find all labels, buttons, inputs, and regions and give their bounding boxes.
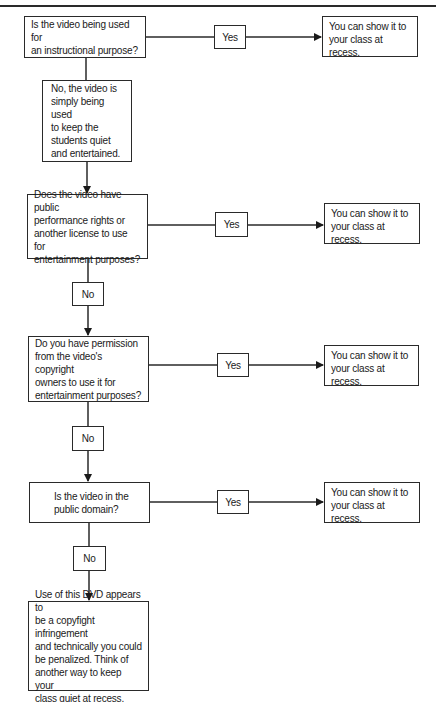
outcome-show-at-recess-2: You can show it to your class at recess. [324,203,420,244]
yes-label-3: Yes [217,353,249,377]
yes-label-2: Yes [215,212,248,237]
conclusion-copyright-infringement: Use of this DVD appears to be a copyfigh… [28,601,149,691]
outcome-show-at-recess-3: You can show it to your class at recess. [324,345,419,386]
decision-public-performance-rights: Does the video have public performance r… [27,194,148,259]
decision-copyright-permission: Do you have permission from the video's … [28,336,149,402]
yes-label-1: Yes [214,25,246,49]
no-label-3: No [73,546,106,571]
outcome-show-at-recess-1: You can show it to your class at recess. [322,16,418,57]
outcome-show-at-recess-4: You can show it to your class at recess. [324,482,420,523]
decision-public-domain: Is the video in the public domain? [29,482,150,523]
decision-instructional-purpose: Is the video being used for an instructi… [24,16,146,58]
note-entertainment-use: No, the video is simply being used to ke… [42,80,132,162]
no-label-1: No [72,282,104,306]
yes-label-4: Yes [217,490,249,514]
no-label-2: No [72,426,104,451]
